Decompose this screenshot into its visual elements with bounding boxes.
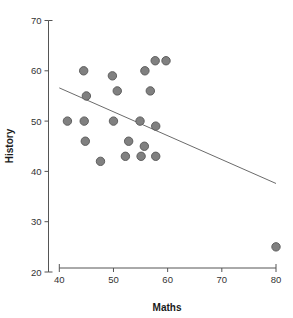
y-tick-label: 50 xyxy=(31,116,42,127)
data-point xyxy=(113,87,121,95)
data-point xyxy=(80,117,88,125)
regression-line xyxy=(59,88,276,184)
y-axis-title: History xyxy=(4,128,15,163)
y-tick-label: 40 xyxy=(31,166,42,177)
data-point xyxy=(82,92,90,100)
data-point xyxy=(137,152,145,160)
data-point xyxy=(272,243,280,251)
data-point xyxy=(136,117,144,125)
plot-area: 203040506070 4050607080 Maths History xyxy=(0,0,293,318)
data-point xyxy=(109,117,117,125)
data-point xyxy=(140,142,148,150)
x-axis: 4050607080 xyxy=(54,264,281,285)
x-tick-label: 60 xyxy=(162,274,173,285)
x-tick-label: 50 xyxy=(108,274,119,285)
data-point xyxy=(146,87,154,95)
data-point xyxy=(79,67,87,75)
data-point xyxy=(121,152,129,160)
data-point xyxy=(96,157,104,165)
data-point xyxy=(151,57,159,65)
scatter-chart: 203040506070 4050607080 Maths History xyxy=(0,0,293,318)
y-tick-label: 60 xyxy=(31,65,42,76)
x-axis-title: Maths xyxy=(153,302,182,313)
trend-line xyxy=(59,88,276,184)
data-point xyxy=(81,137,89,145)
x-tick-label: 70 xyxy=(217,274,228,285)
x-tick-label: 80 xyxy=(271,274,282,285)
y-tick-label: 20 xyxy=(31,267,42,278)
data-point xyxy=(152,152,160,160)
y-tick-label: 30 xyxy=(31,216,42,227)
data-point xyxy=(108,72,116,80)
x-tick-label: 40 xyxy=(54,274,65,285)
data-point xyxy=(162,57,170,65)
y-tick-label: 70 xyxy=(31,15,42,26)
data-point xyxy=(124,137,132,145)
data-points xyxy=(63,57,280,252)
data-point xyxy=(152,122,160,130)
y-axis: 203040506070 xyxy=(31,15,53,278)
data-point xyxy=(63,117,71,125)
data-point xyxy=(141,67,149,75)
